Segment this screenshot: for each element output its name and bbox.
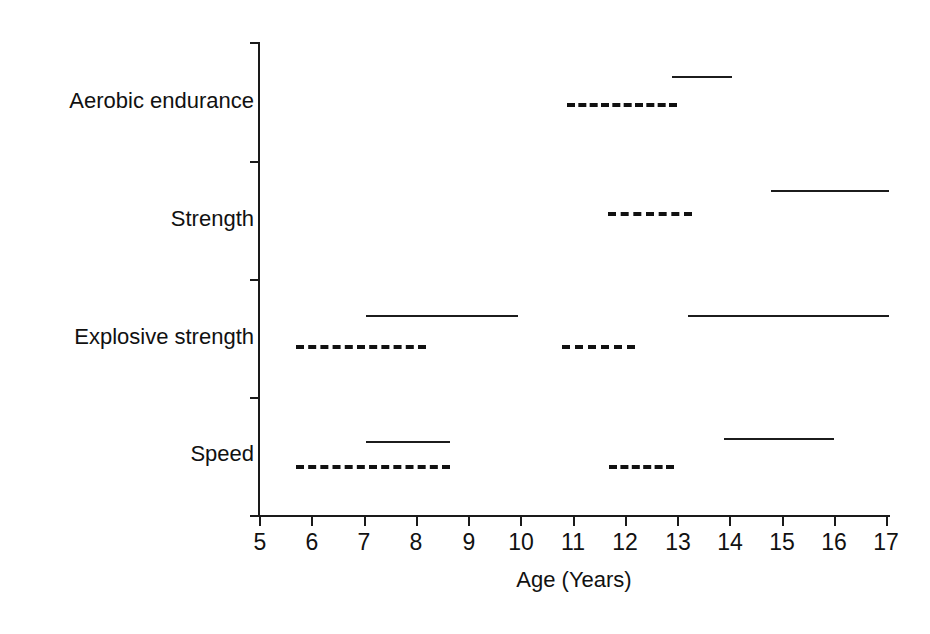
x-tick-label-6: 6 bbox=[290, 528, 334, 556]
x-tick-17 bbox=[886, 517, 888, 526]
x-tick-8 bbox=[416, 517, 418, 526]
y-tick-bottom bbox=[250, 515, 259, 517]
chart-container: 5 6 7 8 9 10 11 12 13 14 15 16 17 Age (Y… bbox=[0, 0, 930, 634]
segment-explosive-strength-solid-2 bbox=[688, 315, 889, 317]
x-tick-11 bbox=[573, 517, 575, 526]
segment-speed-solid-2 bbox=[724, 438, 834, 440]
x-tick-label-12: 12 bbox=[603, 528, 647, 556]
x-tick-label-14: 14 bbox=[708, 528, 752, 556]
x-tick-label-10: 10 bbox=[499, 528, 543, 556]
segment-strength-dashed-1 bbox=[608, 212, 692, 216]
segment-strength-solid-1 bbox=[771, 190, 889, 192]
x-tick-9 bbox=[468, 517, 470, 526]
y-tick-top bbox=[250, 42, 259, 44]
y-tick-2 bbox=[250, 279, 259, 281]
x-tick-7 bbox=[364, 517, 366, 526]
x-tick-label-16: 16 bbox=[812, 528, 856, 556]
segment-speed-dashed-2 bbox=[609, 465, 674, 469]
x-tick-5 bbox=[259, 517, 261, 526]
x-tick-14 bbox=[729, 517, 731, 526]
segment-explosive-strength-dashed-1 bbox=[296, 345, 427, 349]
segment-explosive-strength-dashed-2 bbox=[562, 345, 635, 349]
segment-aerobic-endurance-dashed-1 bbox=[567, 103, 677, 107]
x-tick-label-5: 5 bbox=[238, 528, 282, 556]
x-tick-12 bbox=[625, 517, 627, 526]
segment-speed-solid-1 bbox=[366, 441, 450, 443]
y-category-label-explosive-strength: Explosive strength bbox=[74, 324, 254, 350]
x-tick-13 bbox=[677, 517, 679, 526]
x-tick-label-17: 17 bbox=[864, 528, 908, 556]
x-tick-label-13: 13 bbox=[656, 528, 700, 556]
y-category-label-strength: Strength bbox=[171, 206, 254, 232]
y-tick-1 bbox=[250, 161, 259, 163]
y-category-label-aerobic-endurance: Aerobic endurance bbox=[69, 88, 254, 114]
x-tick-6 bbox=[311, 517, 313, 526]
segment-explosive-strength-solid-1 bbox=[366, 315, 518, 317]
segment-speed-dashed-1 bbox=[296, 465, 450, 469]
y-category-label-speed: Speed bbox=[190, 441, 254, 467]
x-tick-label-15: 15 bbox=[760, 528, 804, 556]
x-tick-label-7: 7 bbox=[342, 528, 386, 556]
x-axis-title: Age (Years) bbox=[258, 566, 890, 594]
x-tick-label-8: 8 bbox=[394, 528, 438, 556]
x-tick-15 bbox=[782, 517, 784, 526]
x-tick-label-11: 11 bbox=[551, 528, 595, 556]
x-tick-16 bbox=[834, 517, 836, 526]
y-tick-3 bbox=[250, 397, 259, 399]
segment-aerobic-endurance-solid-1 bbox=[672, 76, 732, 78]
x-tick-label-9: 9 bbox=[447, 528, 491, 556]
x-tick-10 bbox=[520, 517, 522, 526]
